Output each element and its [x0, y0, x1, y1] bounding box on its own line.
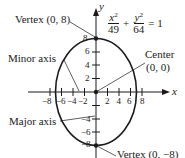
- y-axis-label: y: [99, 1, 104, 12]
- center-label: Center: [145, 49, 174, 60]
- vertex-top-label: Vertex (0, 8): [15, 14, 70, 25]
- x-tick-label: −6: [56, 97, 66, 106]
- y-tick-label: 2: [85, 74, 90, 83]
- x-tick-label: 2: [105, 97, 110, 106]
- x-tick-label: 8: [140, 97, 145, 106]
- y-exponent: 2: [139, 11, 143, 19]
- x-tick-label: −8: [42, 97, 52, 106]
- y-tick-label: −6: [81, 128, 91, 137]
- y-fraction: y2 64: [133, 10, 144, 35]
- x-fraction: x2 49: [108, 10, 119, 35]
- ellipse-diagram: x2 49 + y2 64 = 1 y x −8 −6 −4 −2 2 4 6 …: [0, 0, 185, 158]
- x-axis-arrow-icon: [162, 89, 170, 95]
- y-tick-label: 8: [83, 34, 88, 43]
- major-axis-label: Major axis: [9, 116, 56, 127]
- ellipse-equation: x2 49 + y2 64 = 1: [107, 10, 166, 35]
- y-tick-label: 4: [85, 61, 90, 70]
- x-axis-label: x: [172, 86, 177, 97]
- minor-axis-label: Minor axis: [8, 53, 56, 64]
- center-coords-label: (0, 0): [146, 62, 170, 73]
- y-denominator: 64: [133, 24, 144, 35]
- equals-one: = 1: [148, 17, 162, 29]
- x-tick-label: 6: [127, 97, 132, 106]
- x-tick-label: −2: [78, 97, 88, 106]
- x-denominator: 49: [108, 24, 119, 35]
- x-tick-label: 4: [117, 97, 122, 106]
- vertex-bottom-point: [94, 143, 98, 147]
- y-tick-label: −8: [81, 140, 91, 149]
- y-tick-label: 6: [85, 47, 90, 56]
- plus-sign: +: [123, 17, 129, 29]
- y-tick-label: −4: [81, 115, 91, 124]
- x-tick-label: −4: [67, 97, 77, 106]
- x-exponent: 2: [114, 11, 118, 19]
- vertex-bottom-label: Vertex (0, −8): [117, 149, 179, 158]
